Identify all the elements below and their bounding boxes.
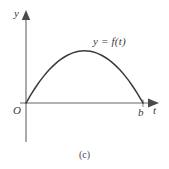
- function-curve: [26, 51, 143, 103]
- t-axis-label: t: [153, 105, 156, 116]
- function-equation-label: y = f(t): [93, 36, 126, 47]
- y-axis-arrowhead: [22, 10, 30, 20]
- origin-label: O: [13, 105, 21, 116]
- graph-canvas: [0, 0, 169, 169]
- y-axis-label: y: [14, 8, 19, 19]
- x-intercept-b-label: b: [138, 107, 144, 118]
- figure-caption: (c): [0, 149, 169, 160]
- figure-container: y O b t y = f(t) (c): [0, 0, 169, 169]
